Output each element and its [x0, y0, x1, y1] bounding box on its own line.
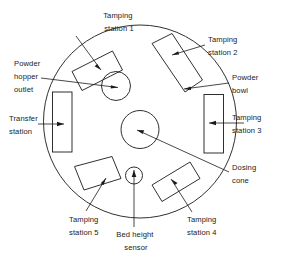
- transfer-station-shape: [53, 92, 73, 152]
- label-tamping-station-2: Tamping station 2: [208, 35, 240, 57]
- tamping-station-1-leader: [76, 36, 101, 70]
- dosing-cone-leader: [137, 130, 229, 172]
- label-powder-bowl: Powder bowl: [232, 73, 261, 95]
- tamping-station-4-shape: [152, 162, 200, 202]
- label-tamping-station-4: Tamping station 4: [187, 215, 219, 237]
- label-powder-hopper-outlet: Powder hopper outlet: [14, 59, 43, 94]
- dosing-cone-shape: [121, 111, 159, 149]
- tamping-station-2-leader: [172, 45, 205, 55]
- tamping-station-5-leader: [86, 178, 106, 211]
- label-dosing-cone: Dosing cone: [232, 163, 258, 185]
- tamping-station-5-shape: [75, 157, 122, 191]
- label-transfer-station: Transfer station: [9, 114, 40, 136]
- label-tamping-station-1: Tamping station 1: [103, 11, 135, 33]
- transfer-station-leader: [38, 122, 64, 127]
- powder-hopper-outlet-leader: [41, 78, 118, 89]
- label-bed-height-sensor: Bed height sensor: [116, 230, 156, 252]
- bed-height-sensor-leader: [132, 170, 137, 227]
- diagram-canvas: Tamping station 1 Tamping station 2 Powd…: [0, 0, 281, 274]
- tamping-station-4-leader: [171, 179, 192, 212]
- tamping-machine-diagram: Tamping station 1 Tamping station 2 Powd…: [0, 0, 281, 274]
- label-tamping-station-5: Tamping station 5: [69, 215, 101, 237]
- powder-bowl-leader: [184, 83, 229, 90]
